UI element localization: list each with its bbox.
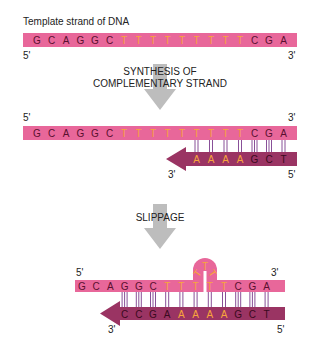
nucleotide-t: T	[193, 35, 199, 46]
complementary-strand-bases: AAAAGCT	[193, 154, 286, 165]
nucleotide-g: G	[249, 281, 257, 292]
nucleotide-t: T	[193, 281, 199, 292]
nucleotide-t: T	[164, 281, 170, 292]
five-prime-label: 5'	[288, 169, 296, 180]
nucleotide-t: T	[164, 128, 170, 139]
hydrogen-bonds	[122, 292, 268, 307]
nucleotide-t: T	[207, 281, 213, 292]
process-arrow-synthesis: SYNTHESIS OF COMPLEMENTARY STRAND	[93, 64, 227, 110]
nucleotide-a: A	[164, 309, 171, 320]
hydrogen-bonds	[195, 140, 285, 152]
three-prime-label: 3'	[168, 169, 176, 180]
nucleotide-c: C	[149, 281, 156, 292]
panel-slippage: 5' 3' TTT GCAGGCTTTTTCGA CCGAAAAAGCT 3' …	[75, 258, 285, 335]
nucleotide-a: A	[280, 35, 287, 46]
nucleotide-a: A	[63, 128, 70, 139]
five-prime-label: 5'	[23, 112, 31, 123]
nucleotide-a: A	[192, 309, 199, 320]
nucleotide-a: A	[221, 309, 228, 320]
nucleotide-c: C	[265, 154, 272, 165]
nucleotide-t: T	[237, 128, 243, 139]
nucleotide-a: A	[193, 154, 200, 165]
nucleotide-t: T	[121, 35, 127, 46]
nucleotide-g: G	[33, 35, 41, 46]
nucleotide-t: T	[150, 35, 156, 46]
nucleotide-c: C	[48, 35, 55, 46]
nucleotide-c: C	[106, 128, 113, 139]
step-caption-line-1: SYNTHESIS OF	[123, 66, 196, 77]
nucleotide-a: A	[206, 309, 213, 320]
process-arrow-slippage: SLIPPAGE	[136, 204, 185, 249]
nucleotide-a: A	[178, 309, 185, 320]
five-prime-label: 5'	[23, 50, 31, 61]
nucleotide-c: C	[251, 128, 258, 139]
diagram-title: Template strand of DNA	[23, 16, 129, 27]
nucleotide-t: T	[135, 35, 141, 46]
nucleotide-t: T	[222, 128, 228, 139]
nucleotide-t: T	[280, 154, 286, 165]
nucleotide-a: A	[63, 35, 70, 46]
nucleotide-t: T	[179, 35, 185, 46]
nucleotide-t: T	[178, 281, 184, 292]
dna-slippage-diagram: Template strand of DNA GCAGGCTTTTTTTTTCG…	[0, 0, 312, 357]
panel-synthesis: 5' 3' GCAGGCTTTTTTTTTCGA AAAAGCT 3' 5'	[23, 112, 297, 180]
nucleotide-a: A	[280, 128, 287, 139]
panel-template-only: GCAGGCTTTTTTTTTCGA 5' 3'	[23, 33, 297, 61]
nucleotide-t: T	[202, 261, 208, 272]
nucleotide-t: T	[150, 128, 156, 139]
nucleotide-t: T	[237, 35, 243, 46]
nucleotide-a: A	[107, 281, 114, 292]
nucleotide-g: G	[121, 281, 129, 292]
nucleotide-g: G	[234, 309, 242, 320]
nucleotide-g: G	[33, 128, 41, 139]
nucleotide-c: C	[93, 281, 100, 292]
nucleotide-c: C	[251, 35, 258, 46]
nucleotide-g: G	[91, 35, 99, 46]
nucleotide-g: G	[91, 128, 99, 139]
nucleotide-c: C	[48, 128, 55, 139]
nucleotide-g: G	[265, 128, 273, 139]
step-caption: SLIPPAGE	[136, 212, 185, 223]
five-prime-label: 5'	[277, 324, 285, 335]
nucleotide-g: G	[77, 128, 85, 139]
nucleotide-a: A	[263, 281, 270, 292]
nucleotide-t: T	[221, 281, 227, 292]
nucleotide-t: T	[164, 35, 170, 46]
three-prime-label: 3'	[288, 50, 296, 61]
nucleotide-a: A	[237, 154, 244, 165]
nucleotide-g: G	[265, 35, 273, 46]
nucleotide-t: T	[135, 128, 141, 139]
nucleotide-c: C	[235, 281, 242, 292]
nucleotide-c: C	[249, 309, 256, 320]
three-prime-label: 3'	[288, 112, 296, 123]
nucleotide-c: C	[135, 309, 142, 320]
five-prime-label: 5'	[76, 267, 84, 278]
three-prime-label: 3'	[271, 267, 279, 278]
nucleotide-t: T	[179, 128, 185, 139]
nucleotide-t: T	[208, 128, 214, 139]
nucleotide-g: G	[251, 154, 259, 165]
step-caption-line-2: COMPLEMENTARY STRAND	[93, 78, 227, 89]
nucleotide-g: G	[77, 35, 85, 46]
nucleotide-t: T	[193, 128, 199, 139]
nucleotide-g: G	[78, 281, 86, 292]
complementary-strand-arrow	[166, 147, 297, 171]
nucleotide-t: T	[121, 128, 127, 139]
down-arrow-icon	[144, 204, 176, 249]
nucleotide-a: A	[222, 154, 229, 165]
nucleotide-t: T	[208, 35, 214, 46]
nucleotide-t: T	[264, 309, 270, 320]
nucleotide-t: T	[222, 35, 228, 46]
three-prime-label: 3'	[108, 324, 116, 335]
nucleotide-g: G	[149, 309, 157, 320]
nucleotide-g: G	[135, 281, 143, 292]
nucleotide-c: C	[121, 309, 128, 320]
nucleotide-a: A	[208, 154, 215, 165]
nucleotide-c: C	[106, 35, 113, 46]
